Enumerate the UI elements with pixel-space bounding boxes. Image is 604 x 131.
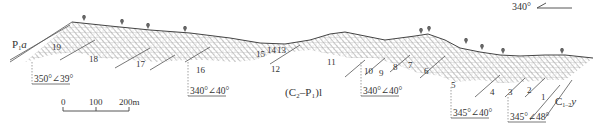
dip-label: 345°∠40° <box>453 108 493 118</box>
bedding-line <box>345 60 365 77</box>
dip-marker: 340°∠40° <box>188 62 230 96</box>
layer-number: 12 <box>271 64 280 74</box>
sample-point-icon <box>464 38 468 44</box>
dip-marker: 350°∠39° <box>32 62 74 84</box>
layer-number: 10 <box>364 66 374 76</box>
layer-number: 3 <box>508 87 513 97</box>
layer-number: 4 <box>490 87 495 97</box>
orientation-indicator: 340° <box>512 1 572 12</box>
sample-point-icon <box>183 26 187 32</box>
direction-arrow-icon <box>537 3 572 8</box>
rock-body <box>25 22 593 83</box>
dip-marker: 345°∠40° <box>451 87 493 118</box>
sample-point-icon <box>560 48 564 54</box>
layer-number: 8 <box>393 62 398 72</box>
sample-point-icon <box>82 15 86 21</box>
rock-body-texture <box>25 22 593 83</box>
layer-number: 18 <box>89 54 99 64</box>
layer-number: 1 <box>541 92 546 102</box>
layer-number: 17 <box>136 59 146 69</box>
scale-tick-label: 200m <box>119 97 140 107</box>
sample-point-icon <box>146 23 150 29</box>
sample-point-icon <box>120 19 124 25</box>
sample-point-icon <box>501 48 505 54</box>
layer-number: 16 <box>196 65 206 75</box>
scale-bar: 0 100 200m <box>61 97 140 111</box>
dip-label: 345°∠48° <box>510 112 550 122</box>
formation-label-p1a: P1a <box>12 38 27 51</box>
sample-point-icon <box>427 26 431 32</box>
layer-number: 6 <box>424 66 429 76</box>
formation-label-c2-p1l: (C₂–P₁)l <box>285 86 322 99</box>
layer-number: 5 <box>451 80 456 90</box>
sample-point-icon <box>480 44 484 50</box>
sample-point-icon <box>419 28 423 34</box>
layer-number: 14 <box>267 45 277 55</box>
orientation-label: 340° <box>512 1 531 12</box>
formation-label-c1-2y: C1–2y <box>555 95 576 108</box>
scale-tick-label: 0 <box>61 97 66 107</box>
layer-number: 7 <box>408 60 413 70</box>
layer-number: 13 <box>277 45 287 55</box>
dip-label: 350°∠39° <box>34 74 74 84</box>
cross-section-diagram: 340° P1a (C₂–P₁)l C1–2y 19 18 17 16 15 1… <box>0 0 604 131</box>
layer-number: 19 <box>52 42 62 52</box>
dip-label: 340°∠40° <box>363 86 403 96</box>
layer-number: 2 <box>527 85 532 95</box>
layer-number: 11 <box>327 57 336 67</box>
scale-tick-label: 100 <box>89 97 103 107</box>
layer-number: 9 <box>379 68 384 78</box>
layer-number: 15 <box>256 49 266 59</box>
dip-label: 340°∠40° <box>190 86 230 96</box>
